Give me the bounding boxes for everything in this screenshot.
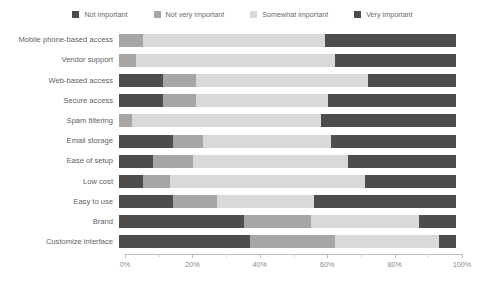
legend-item[interactable]: Very important: [354, 11, 412, 18]
stacked-bar[interactable]: [119, 34, 456, 47]
bar-segment[interactable]: [331, 135, 456, 148]
bar-segment[interactable]: [153, 155, 193, 168]
x-axis-tick-minor: [361, 254, 362, 257]
bar-segment[interactable]: [314, 195, 456, 208]
bar-segment[interactable]: [170, 175, 365, 188]
legend-item[interactable]: Not very important: [154, 11, 225, 18]
bar-row: Vendor support: [0, 50, 485, 70]
bar-row: Mobile phone-based access: [0, 30, 485, 50]
stacked-bar[interactable]: [119, 135, 456, 148]
bar-segment[interactable]: [196, 74, 368, 87]
bar-segment[interactable]: [244, 215, 311, 228]
bar-segment[interactable]: [217, 195, 315, 208]
chart-legend: Not importantNot very importantSomewhat …: [0, 11, 485, 18]
legend-item-label: Somewhat important: [262, 11, 328, 18]
x-axis-tick-minor: [428, 254, 429, 257]
bar-segment[interactable]: [365, 175, 456, 188]
bar-segment[interactable]: [119, 94, 163, 107]
x-axis-tick-major: [125, 254, 126, 258]
x-axis-tick-major: [260, 254, 261, 258]
stacked-bar[interactable]: [119, 175, 456, 188]
bar-segment[interactable]: [119, 215, 244, 228]
legend-swatch-icon: [354, 11, 361, 18]
category-label: Web-based access: [0, 77, 119, 85]
bar-segment[interactable]: [335, 54, 456, 67]
bar-segment[interactable]: [119, 135, 173, 148]
bar-row: Easy to use: [0, 192, 485, 212]
bar-segment[interactable]: [163, 74, 197, 87]
legend-swatch-icon: [250, 11, 257, 18]
bar-rows: Mobile phone-based accessVendor supportW…: [0, 30, 485, 254]
bar-segment[interactable]: [119, 175, 143, 188]
bar-segment[interactable]: [311, 215, 419, 228]
x-axis-tick-label: 60%: [320, 261, 334, 268]
legend-item[interactable]: Not important: [72, 11, 127, 18]
stacked-bar[interactable]: [119, 195, 456, 208]
bar-row: Low cost: [0, 171, 485, 191]
bar-segment[interactable]: [439, 235, 456, 248]
bar-segment[interactable]: [419, 215, 456, 228]
bar-segment[interactable]: [163, 94, 197, 107]
stacked-bar[interactable]: [119, 215, 456, 228]
category-label: Mobile phone-based access: [0, 36, 119, 44]
bar-segment[interactable]: [119, 114, 132, 127]
bar-segment[interactable]: [193, 155, 348, 168]
x-axis-tick-label: 20%: [185, 261, 199, 268]
bar-segment[interactable]: [335, 235, 439, 248]
x-axis-tick-label: 40%: [253, 261, 267, 268]
x-axis-ticks: [125, 254, 462, 258]
plot-area: Mobile phone-based accessVendor supportW…: [0, 30, 485, 258]
bar-segment[interactable]: [250, 235, 334, 248]
x-axis-tick-major: [192, 254, 193, 258]
legend-item-label: Not very important: [166, 11, 225, 18]
category-label: Vendor support: [0, 56, 119, 64]
category-label: Ease of setup: [0, 157, 119, 165]
stacked-bar[interactable]: [119, 155, 456, 168]
stacked-bar[interactable]: [119, 235, 456, 248]
bar-row: Brand: [0, 212, 485, 232]
bar-segment[interactable]: [321, 114, 456, 127]
x-axis-labels: 0%20%40%60%80%100%: [125, 261, 462, 273]
bar-segment[interactable]: [196, 94, 327, 107]
bar-segment[interactable]: [325, 34, 456, 47]
legend-item[interactable]: Somewhat important: [250, 11, 328, 18]
category-label: Low cost: [0, 178, 119, 186]
legend-swatch-icon: [154, 11, 161, 18]
legend-swatch-icon: [72, 11, 79, 18]
stacked-bar[interactable]: [119, 94, 456, 107]
category-label: Secure access: [0, 97, 119, 105]
bar-row: Spam filtering: [0, 111, 485, 131]
bar-row: Ease of setup: [0, 151, 485, 171]
x-axis-tick-major: [462, 254, 463, 258]
category-label: Spam filtering: [0, 117, 119, 125]
bar-segment[interactable]: [119, 54, 136, 67]
bar-segment[interactable]: [119, 34, 143, 47]
bar-segment[interactable]: [132, 114, 321, 127]
category-label: Customize interface: [0, 238, 119, 246]
stacked-bar[interactable]: [119, 114, 456, 127]
x-axis-tick-major: [395, 254, 396, 258]
bar-segment[interactable]: [173, 195, 217, 208]
bar-segment[interactable]: [119, 195, 173, 208]
bar-segment[interactable]: [119, 74, 163, 87]
bar-segment[interactable]: [368, 74, 456, 87]
stacked-bar[interactable]: [119, 54, 456, 67]
x-axis-tick-major: [327, 254, 328, 258]
bar-segment[interactable]: [143, 34, 325, 47]
bar-segment[interactable]: [136, 54, 335, 67]
bar-segment[interactable]: [348, 155, 456, 168]
bar-segment[interactable]: [119, 235, 250, 248]
category-label: Email storage: [0, 137, 119, 145]
bar-row: Email storage: [0, 131, 485, 151]
x-axis-tick-label: 100%: [453, 261, 471, 268]
bar-segment[interactable]: [119, 155, 153, 168]
legend-item-label: Very important: [366, 11, 412, 18]
bar-row: Customize interface: [0, 232, 485, 252]
bar-segment[interactable]: [143, 175, 170, 188]
x-axis-tick-label: 80%: [387, 261, 401, 268]
stacked-bar[interactable]: [119, 74, 456, 87]
bar-segment[interactable]: [203, 135, 331, 148]
bar-row: Web-based access: [0, 70, 485, 90]
bar-segment[interactable]: [173, 135, 203, 148]
bar-segment[interactable]: [328, 94, 456, 107]
